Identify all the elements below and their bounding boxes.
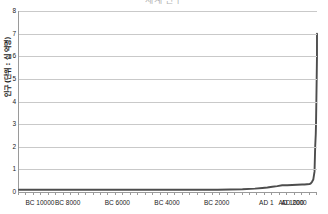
x-axis-tick-label: BC 10000 — [26, 200, 55, 207]
x-axis-minor-tick — [182, 192, 183, 195]
x-axis-minor-tick — [286, 192, 287, 195]
y-axis-tick-label: 8 — [5, 8, 16, 15]
x-axis-minor-tick — [227, 192, 228, 195]
y-axis-tick-label: 6 — [5, 53, 16, 60]
y-axis-tick-label: 4 — [5, 98, 16, 105]
x-axis-minor-tick — [189, 192, 190, 195]
x-axis-minor-tick — [70, 192, 71, 195]
x-axis-minor-tick — [197, 192, 198, 195]
x-axis-minor-tick — [107, 192, 108, 195]
y-axis-tick-label: 0 — [5, 189, 16, 196]
gridline — [19, 147, 317, 148]
x-axis-tick-label: BC 6000 — [105, 200, 130, 207]
x-axis-minor-tick — [55, 192, 56, 195]
y-axis-tick-label: 2 — [5, 144, 16, 151]
x-axis-minor-tick — [152, 192, 153, 195]
x-axis-minor-tick — [242, 192, 243, 195]
x-axis-minor-tick — [316, 192, 317, 195]
gridline — [19, 169, 317, 170]
x-axis-minor-tick — [85, 192, 86, 195]
gridline — [19, 124, 317, 125]
x-axis-tick-label: AD 1 — [259, 200, 273, 207]
x-axis-minor-tick — [174, 192, 175, 195]
y-axis-tick-label: 7 — [5, 30, 16, 37]
x-axis-tick-label: BC 8000 — [55, 200, 80, 207]
x-axis-tick-label: BC 2000 — [204, 200, 229, 207]
x-axis-minor-tick — [25, 192, 26, 195]
x-axis-minor-tick — [48, 192, 49, 195]
x-axis-minor-tick — [122, 192, 123, 195]
x-axis-minor-tick — [212, 192, 213, 195]
x-axis-minor-tick — [137, 192, 138, 195]
chart-title: 세계 인구 — [0, 0, 328, 6]
x-axis-tick-label: AD 2000 — [281, 200, 306, 207]
gridline — [19, 79, 317, 80]
plot-area — [18, 11, 317, 193]
population-line-chart: 세계 인구 인구 (단위 : 십 억명) 012345678 BC 10000B… — [0, 0, 328, 214]
y-axis-tick-label: 3 — [5, 121, 16, 128]
x-axis-minor-tick — [301, 192, 302, 195]
gridline — [19, 56, 317, 57]
gridline — [19, 102, 317, 103]
x-axis-minor-tick — [271, 192, 272, 195]
x-axis-minor-tick — [115, 192, 116, 195]
y-axis-tick-labels: 012345678 — [5, 11, 16, 192]
x-axis-minor-tick — [279, 192, 280, 195]
x-axis-minor-tick — [160, 192, 161, 195]
x-axis-minor-tick — [167, 192, 168, 195]
x-axis-minor-tick — [100, 192, 101, 195]
x-axis-minor-tick — [18, 192, 19, 195]
x-axis-minor-tick — [40, 192, 41, 195]
x-axis-minor-tick — [309, 192, 310, 195]
x-axis-minor-tick — [204, 192, 205, 195]
x-axis-minor-tick — [33, 192, 34, 195]
gridline — [19, 34, 317, 35]
x-axis-tick-label: BC 4000 — [154, 200, 179, 207]
x-axis-tick-labels: BC 10000BC 8000BC 6000BC 4000BC 2000AD 1… — [18, 200, 316, 212]
x-axis-minor-tick — [63, 192, 64, 195]
x-axis-minor-tick — [145, 192, 146, 195]
x-axis-minor-tick — [130, 192, 131, 195]
x-axis-minor-tick — [264, 192, 265, 195]
gridline — [19, 11, 317, 12]
x-axis-minor-tick — [294, 192, 295, 195]
x-axis-minor-tick — [93, 192, 94, 195]
y-axis-tick-label: 1 — [5, 166, 16, 173]
x-axis-minor-tick — [256, 192, 257, 195]
x-axis-minor-tick — [78, 192, 79, 195]
y-axis-tick-label: 5 — [5, 76, 16, 83]
x-axis-minor-tick — [249, 192, 250, 195]
x-axis-minor-tick — [219, 192, 220, 195]
x-axis-minor-tick — [234, 192, 235, 195]
x-axis-minor-ticks — [18, 192, 316, 195]
